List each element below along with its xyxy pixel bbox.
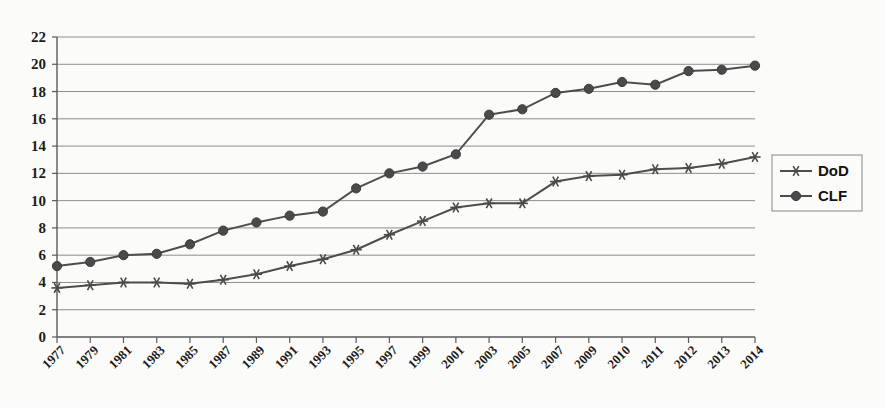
data-point-marker: [684, 66, 693, 75]
x-axis-tick-label: 1983: [139, 342, 168, 371]
x-axis-tick-label: 1995: [338, 342, 367, 371]
data-point-marker: [584, 84, 593, 93]
x-axis-tick-label: 1977: [39, 342, 68, 371]
y-axis-tick-label: 0: [39, 329, 47, 345]
x-axis-tick-label: 2009: [571, 342, 600, 371]
data-point-marker: [185, 240, 194, 249]
data-point-marker: [716, 159, 727, 169]
x-axis-tick-label: 2013: [704, 342, 733, 371]
data-point-marker: [52, 261, 61, 270]
data-point-marker: [417, 216, 428, 226]
y-axis-tick-label: 8: [39, 220, 47, 236]
data-point-marker: [651, 80, 660, 89]
series-line: [57, 157, 755, 288]
data-point-marker: [484, 110, 493, 119]
data-point-marker: [583, 171, 594, 181]
data-point-marker: [86, 257, 95, 266]
y-axis-tick-label: 18: [31, 84, 46, 100]
line-chart: 0246810121416182022 19771979198119831985…: [0, 0, 885, 408]
data-point-marker: [184, 279, 195, 289]
data-point-marker: [152, 249, 161, 258]
data-point-marker: [650, 164, 661, 174]
x-axis-tick-label: 1997: [372, 342, 401, 371]
data-point-marker: [518, 105, 527, 114]
data-point-marker: [352, 184, 361, 193]
y-axis-tick-labels: 0246810121416182022: [31, 29, 47, 345]
x-axis-tick-label: 1979: [72, 342, 101, 371]
chart-legend: DoDCLF: [772, 155, 862, 211]
data-point-marker: [450, 203, 461, 213]
x-axis-tick-label: 1985: [172, 342, 201, 371]
data-point-marker: [717, 65, 726, 74]
data-point-marker: [551, 88, 560, 97]
y-axis-tick-label: 6: [39, 247, 47, 263]
x-axis-tick-label: 2001: [438, 343, 467, 372]
x-axis-tick-label: 2011: [638, 343, 666, 371]
data-point-marker: [318, 207, 327, 216]
data-point-marker: [218, 275, 229, 285]
x-axis-tick-label: 1993: [305, 342, 334, 371]
data-point-marker: [251, 269, 262, 279]
legend-label: DoD: [818, 162, 849, 179]
y-axis-tick-label: 10: [31, 193, 46, 209]
data-point-marker: [451, 150, 460, 159]
x-axis-tick-label: 2014: [737, 342, 766, 371]
data-point-marker: [749, 152, 760, 162]
data-point-marker: [119, 251, 128, 260]
y-axis-tick-label: 2: [39, 302, 47, 318]
x-axis-tick-label: 2003: [471, 342, 500, 371]
data-point-marker: [384, 230, 395, 240]
data-point-marker: [317, 254, 328, 264]
x-axis-tick-label: 1989: [239, 342, 268, 371]
y-axis-tick-label: 16: [31, 111, 47, 127]
series-line: [57, 66, 755, 266]
x-axis-tick-label: 1991: [272, 343, 301, 372]
legend-item-dod[interactable]: DoD: [780, 162, 849, 179]
data-point-marker: [285, 211, 294, 220]
data-point-marker: [418, 162, 427, 171]
data-point-marker: [483, 199, 494, 209]
y-axis-tick-label: 4: [39, 274, 47, 290]
data-point-marker: [219, 226, 228, 235]
data-point-marker: [385, 169, 394, 178]
x-axis-tick-label: 2012: [671, 343, 700, 372]
data-point-marker: [617, 77, 626, 86]
x-axis-tick-labels: 1977197919811983198519871989199119931995…: [39, 342, 766, 371]
y-axis-tick-label: 20: [31, 56, 46, 72]
x-axis-tick-label: 2007: [538, 342, 567, 371]
y-axis-tick-label: 12: [31, 165, 46, 181]
y-axis-tick-label: 14: [31, 138, 47, 154]
data-point-marker: [683, 163, 694, 173]
legend-marker-circle-icon: [791, 191, 800, 200]
x-axis-tick-marks: [57, 337, 755, 343]
data-point-marker: [616, 170, 627, 180]
data-series-group: [51, 61, 760, 293]
data-point-marker: [351, 245, 362, 255]
legend-item-clf[interactable]: CLF: [780, 187, 847, 204]
data-point-marker: [151, 278, 162, 288]
data-point-marker: [118, 278, 129, 288]
legend-label: CLF: [818, 187, 847, 204]
x-axis-tick-label: 1981: [106, 343, 135, 372]
x-axis-tick-label: 2005: [504, 342, 533, 371]
data-point-marker: [284, 261, 295, 271]
y-axis-tick-label: 22: [31, 29, 46, 45]
data-point-marker: [750, 61, 759, 70]
data-point-marker: [85, 280, 96, 290]
x-axis-tick-label: 2010: [604, 343, 633, 372]
chart-container: 0246810121416182022 19771979198119831985…: [0, 0, 885, 408]
x-axis-tick-label: 1999: [405, 342, 434, 371]
data-point-marker: [252, 218, 261, 227]
x-axis-tick-label: 1987: [205, 342, 234, 371]
legend-marker-asterisk-icon: [790, 166, 801, 176]
gridlines-group: [57, 37, 755, 310]
